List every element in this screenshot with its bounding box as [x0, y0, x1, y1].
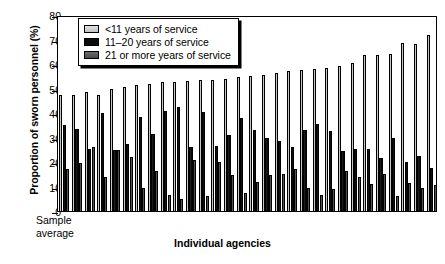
- bar: [320, 195, 323, 211]
- sample-average-line-1: Sample: [36, 214, 106, 227]
- bar: [180, 199, 183, 211]
- bar-group: [338, 17, 351, 211]
- bar-group: [401, 17, 414, 211]
- bar: [168, 195, 171, 211]
- bar: [408, 183, 411, 211]
- bar: [256, 182, 259, 211]
- bar: [282, 174, 285, 211]
- bar: [383, 174, 386, 211]
- bar-group: [313, 17, 326, 211]
- legend-label-11-to-20: 11–20 years of service: [105, 36, 209, 48]
- bar: [396, 196, 399, 211]
- chart-figure: Proportion of sworn personnel (%) 010203…: [0, 0, 445, 264]
- bar: [370, 184, 373, 211]
- bar: [307, 188, 310, 211]
- bar-group: [414, 17, 427, 211]
- bar-group: [325, 17, 338, 211]
- bar-group: [287, 17, 300, 211]
- bar-group: [363, 17, 376, 211]
- bar: [92, 147, 95, 211]
- bar-group: [427, 17, 440, 211]
- bar: [332, 189, 335, 211]
- bar: [130, 157, 133, 211]
- bar: [117, 150, 120, 211]
- bar: [421, 188, 424, 211]
- legend-swatch-icon-11-to-20: [84, 38, 99, 46]
- bar-group: [249, 17, 262, 211]
- legend-label-21-plus: 21 or more years of service: [105, 49, 231, 61]
- x-axis-title: Individual agencies: [0, 237, 445, 249]
- bar-group: [275, 17, 288, 211]
- bar: [231, 175, 234, 211]
- bar: [345, 171, 348, 211]
- bar-group: [262, 17, 275, 211]
- bar: [142, 188, 145, 211]
- bar: [434, 185, 437, 211]
- bar: [193, 160, 196, 211]
- bar: [206, 196, 209, 211]
- bar-group: [389, 17, 402, 211]
- bar: [66, 169, 69, 211]
- chart-legend: <11 years of service 11–20 years of serv…: [78, 18, 239, 66]
- legend-item-11-to-20: 11–20 years of service: [84, 35, 231, 48]
- bar: [177, 107, 180, 211]
- bar: [218, 162, 221, 211]
- legend-swatch-icon-21-plus: [84, 51, 99, 59]
- legend-item-21-plus: 21 or more years of service: [84, 48, 231, 61]
- bar-group: [351, 17, 364, 211]
- bar: [244, 193, 247, 211]
- legend-swatch-icon-under-11: [84, 25, 99, 33]
- bar: [358, 177, 361, 211]
- legend-item-under-11: <11 years of service: [84, 22, 231, 35]
- bar: [269, 175, 272, 211]
- legend-label-under-11: <11 years of service: [105, 23, 197, 35]
- bar: [155, 171, 158, 211]
- bar: [104, 177, 107, 211]
- bar-group: [59, 17, 72, 211]
- bar-group: [300, 17, 313, 211]
- bar-group: [376, 17, 389, 211]
- bar: [294, 169, 297, 211]
- bar: [79, 163, 82, 211]
